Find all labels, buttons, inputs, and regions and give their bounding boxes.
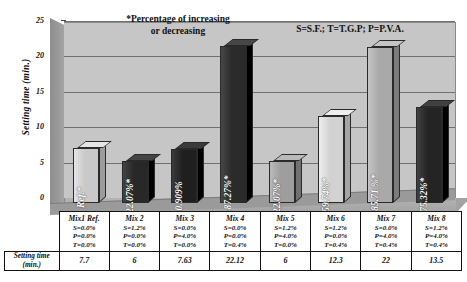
percentage-note: *Percentage of increasing or decreasing: [88, 14, 268, 37]
bar-5: -22.07%*: [269, 161, 295, 203]
mix-name: Mix 3: [160, 214, 209, 223]
table-header-cell-5: Mix 5S=1.2%P=4.0%T=0.0%: [260, 212, 310, 252]
bar-top-face: [420, 100, 455, 107]
table-value-cell-4: 22.12: [210, 252, 260, 271]
bar-side-face: [344, 110, 351, 203]
bar-top-face: [371, 40, 406, 47]
table-value-cell-5: 6: [260, 252, 310, 271]
bar-top-face: [175, 142, 210, 149]
bar-side-face: [246, 40, 253, 203]
mix-name: Mix 6: [311, 214, 360, 223]
mix-spec-s: S=0.0%: [60, 224, 109, 233]
mix-name: Mix 5: [261, 214, 310, 223]
row-label-line2: (min.): [5, 261, 59, 270]
bar-side-face: [148, 154, 155, 203]
bar-2: -22.07%*: [122, 161, 148, 203]
mix-spec-t: T=0.0%: [110, 241, 159, 250]
table-value-cell-7: 22: [361, 252, 411, 271]
table-header-cell-1: Mix1 Ref.S=0.0%P=0.0%T=0.0%: [59, 212, 109, 252]
table-row-header: Mix1 Ref.S=0.0%P=0.0%T=0.0%Mix 2S=1.2%P=…: [5, 212, 462, 252]
mix-spec-t: T=0.0%: [160, 241, 209, 250]
bar-side-face: [197, 143, 204, 203]
bar-8: +75.32%*: [416, 107, 442, 203]
bar-side-face: [442, 101, 449, 203]
bar-value-label: Ref.*: [77, 188, 87, 209]
mix-spec-t: T=0.0%: [261, 241, 310, 250]
mix-name: Mix 8: [412, 214, 461, 223]
table-header-cell-8: Mix 8S=1.2%P=4.0%T=0.4%: [411, 212, 461, 252]
table-value-cell-1: 7.7: [59, 252, 109, 271]
table-corner-blank: [5, 212, 60, 252]
mix-spec-s: S=1.2%: [110, 224, 159, 233]
bar-top-face: [273, 154, 308, 161]
bar-top-face: [77, 141, 112, 148]
bar-3: -0.909%: [171, 149, 197, 203]
table-row-values: Setting time(min.)7.767.6322.12612.32213…: [5, 252, 462, 271]
mix-spec-p: P=4.0%: [361, 232, 410, 241]
mix-spec-p: P=4.0%: [412, 232, 461, 241]
bar-1: Ref.*: [73, 148, 99, 203]
table-header-cell-7: Mix 7S=0.0%P=4.0%T=0.4%: [361, 212, 411, 252]
mix-spec-p: P=4.0%: [261, 232, 310, 241]
mix-spec-t: T=0.4%: [311, 241, 360, 250]
mix-spec-p: P=0.0%: [60, 232, 109, 241]
mix-spec-s: S=0.0%: [160, 224, 209, 233]
mix-spec-s: S=0.0%: [361, 224, 410, 233]
bar-value-label: -0.909%: [175, 182, 185, 214]
bar-top-face: [126, 154, 161, 161]
mix-spec-t: T=0.4%: [412, 241, 461, 250]
setting-time-bar-chart: Setting time (min.) 0510152025 Ref.*-22.…: [0, 0, 467, 282]
table-value-cell-6: 12.3: [311, 252, 361, 271]
bar-6: +59.74%*: [318, 116, 344, 203]
table-row-label: Setting time(min.): [5, 252, 60, 271]
table-header-cell-3: Mix 3S=0.0%P=4.0%T=0.0%: [160, 212, 210, 252]
mix-spec-t: T=0.0%: [60, 241, 109, 250]
percentage-note-line2: or decreasing: [151, 26, 205, 36]
mix-data-table: Mix1 Ref.S=0.0%P=0.0%T=0.0%Mix 2S=1.2%P=…: [4, 211, 462, 271]
bar-7: +185.71 %*: [367, 47, 393, 203]
bar-side-face: [295, 154, 302, 203]
bar-top-face: [224, 39, 259, 46]
mix-spec-p: P=0.0%: [311, 232, 360, 241]
mix-spec-p: P=4.0%: [160, 232, 209, 241]
table-value-cell-3: 7.63: [160, 252, 210, 271]
bar-4: +187.27%*: [220, 46, 246, 203]
table-header-cell-4: Mix 4S=0.0%P=0.0%T=0.4%: [210, 212, 260, 252]
mix-spec-s: S=0.0%: [210, 224, 259, 233]
bar-side-face: [99, 142, 106, 203]
legend-note: S=S.F.; T=T.G.P; P=P.V.A.: [250, 24, 450, 34]
table-value-cell-2: 6: [109, 252, 159, 271]
mix-spec-p: P=0.0%: [110, 232, 159, 241]
table-header-cell-6: Mix 6S=1.2%P=0.0%T=0.4%: [311, 212, 361, 252]
mix-spec-s: S=1.2%: [412, 224, 461, 233]
mix-spec-t: T=0.4%: [361, 241, 410, 250]
mix-spec-s: S=1.2%: [261, 224, 310, 233]
percentage-note-line1: *Percentage of increasing: [126, 14, 230, 24]
mix-spec-s: S=1.2%: [311, 224, 360, 233]
mix-name: Mix 2: [110, 214, 159, 223]
bar-top-face: [322, 109, 357, 116]
table-value-cell-8: 13.5: [411, 252, 461, 271]
table-header-cell-2: Mix 2S=1.2%P=0.0%T=0.0%: [109, 212, 159, 252]
mix-name: Mix 7: [361, 214, 410, 223]
mix-name: Mix1 Ref.: [60, 214, 109, 223]
mix-spec-t: T=0.4%: [210, 241, 259, 250]
mix-spec-p: P=0.0%: [210, 232, 259, 241]
mix-name: Mix 4: [210, 214, 259, 223]
bar-side-face: [393, 41, 400, 203]
